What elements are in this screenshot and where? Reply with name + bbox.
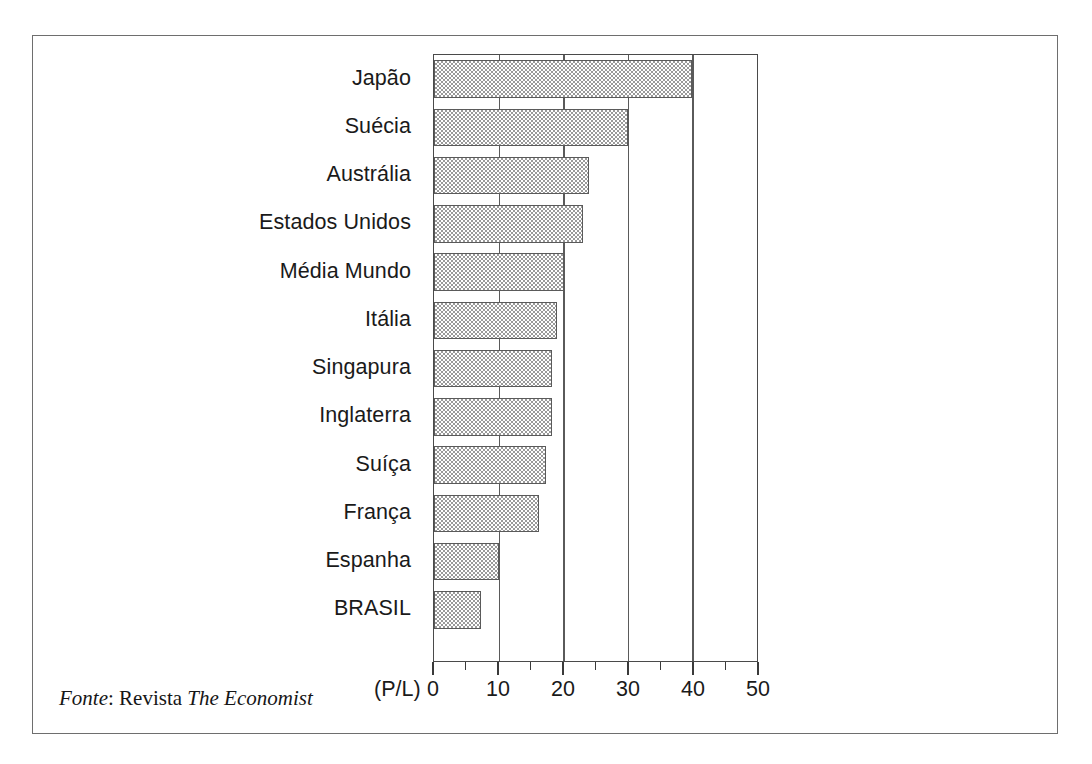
x-tick-minor-45: [725, 662, 727, 670]
bar: [434, 109, 628, 147]
x-axis-ticklabels: 01020304050: [433, 677, 758, 707]
bar: [434, 205, 583, 243]
bar: [434, 495, 539, 533]
source-note: Fonte: Revista The Economist: [59, 686, 313, 711]
bar-row: [434, 393, 757, 441]
x-ticklabel-0: 0: [427, 677, 439, 702]
bar: [434, 446, 546, 484]
x-axis-unit-label: (P/L): [374, 677, 421, 702]
x-tick-major-20: [562, 662, 564, 675]
bar: [434, 157, 589, 195]
category-label: França: [33, 488, 425, 536]
x-tick-major-10: [497, 662, 499, 675]
bar: [434, 253, 564, 291]
source-separator: :: [108, 686, 119, 710]
category-label: Estados Unidos: [33, 199, 425, 247]
category-label: Inglaterra: [33, 392, 425, 440]
x-tick-minor-25: [595, 662, 597, 670]
source-publication: The Economist: [187, 686, 312, 710]
category-label: Singapura: [33, 344, 425, 392]
x-tick-minor-15: [530, 662, 532, 670]
x-ticklabel-10: 10: [486, 677, 510, 702]
x-ticklabel-30: 30: [616, 677, 640, 702]
category-label: BRASIL: [33, 585, 425, 633]
bar-row: [434, 248, 757, 296]
plot-box: [433, 54, 758, 662]
bar: [434, 302, 557, 340]
category-label: Média Mundo: [33, 247, 425, 295]
category-label: Japão: [33, 54, 425, 102]
bar: [434, 591, 481, 629]
source-publication-word: Revista: [119, 686, 187, 710]
x-axis-ticks: [433, 662, 758, 676]
bar-row: [434, 103, 757, 151]
bar-row: [434, 586, 757, 634]
category-label: Itália: [33, 295, 425, 343]
bar-row: [434, 538, 757, 586]
bar-row: [434, 55, 757, 103]
x-tick-major-30: [627, 662, 629, 675]
x-ticklabel-40: 40: [681, 677, 705, 702]
bar-row: [434, 441, 757, 489]
chart-area: Japão Suécia Austrália Estados Unidos Mé…: [33, 36, 1059, 735]
category-label: Espanha: [33, 537, 425, 585]
bar-row: [434, 152, 757, 200]
bar: [434, 398, 552, 436]
bars-layer: [434, 55, 757, 634]
bar-row: [434, 345, 757, 393]
category-label: Austrália: [33, 151, 425, 199]
source-prefix: Fonte: [59, 686, 108, 710]
x-tick-minor-35: [660, 662, 662, 670]
bar-row: [434, 296, 757, 344]
x-tick-major-40: [692, 662, 694, 675]
bar-row: [434, 200, 757, 248]
x-tick-major-0: [432, 662, 434, 675]
bar: [434, 543, 499, 581]
x-tick-minor-5: [465, 662, 467, 670]
x-tick-major-50: [757, 662, 759, 675]
figure-frame: Japão Suécia Austrália Estados Unidos Mé…: [32, 35, 1058, 734]
category-label: Suíça: [33, 440, 425, 488]
bar: [434, 350, 552, 388]
x-ticklabel-50: 50: [746, 677, 770, 702]
category-label: Suécia: [33, 102, 425, 150]
x-ticklabel-20: 20: [551, 677, 575, 702]
category-axis: Japão Suécia Austrália Estados Unidos Mé…: [33, 54, 425, 633]
bar: [434, 60, 692, 98]
bar-row: [434, 489, 757, 537]
